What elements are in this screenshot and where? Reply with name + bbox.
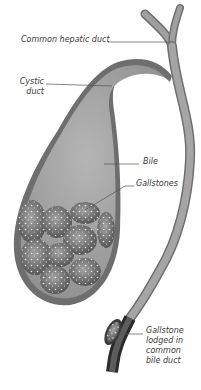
label-gallstones: Gallstones [136,179,178,189]
label-bile: Bile [143,157,158,167]
common-bile-duct [101,316,130,372]
common-hepatic-duct [130,8,190,318]
label-gallstone-lodged: Gallstone lodged in common bile duct [146,326,184,366]
label-common-hepatic-duct: Common hepatic duct [21,35,110,45]
label-cystic-duct: Cystic duct [18,77,44,97]
